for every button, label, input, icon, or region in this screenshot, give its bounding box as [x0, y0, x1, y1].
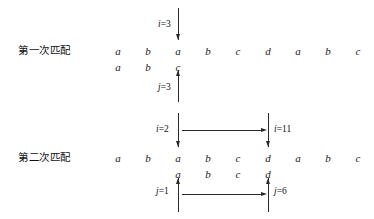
j-end-pointer-arrowhead-2	[266, 178, 270, 184]
text-char-1-3: a	[172, 45, 184, 57]
i-pointer-label-1: i=3	[158, 19, 171, 29]
text-char-1-4: b	[202, 45, 214, 57]
section-caption-2: 第二次匹配	[18, 149, 71, 164]
i-end-pointer-label-2: i=11	[274, 124, 291, 134]
text-char-1-9: c	[352, 45, 364, 57]
i-span-arrow-arrowhead-2	[261, 128, 267, 132]
j-start-pointer-label-2: j=1	[156, 186, 169, 196]
j-pointer-arrowhead-1	[176, 70, 180, 76]
text-char-1-7: a	[292, 45, 304, 57]
pattern-char-1-1: a	[112, 61, 124, 73]
i-start-pointer-arrowhead-2	[176, 141, 180, 147]
pattern-char-2-3: c	[232, 168, 244, 180]
text-char-2-7: a	[292, 152, 304, 164]
j-start-pointer-arrowhead-2	[176, 178, 180, 184]
text-char-2-2: b	[142, 152, 154, 164]
i-pointer-arrowhead-1	[176, 34, 180, 40]
section-caption-1: 第一次匹配	[18, 42, 71, 57]
text-char-1-1: a	[112, 45, 124, 57]
text-char-2-6: d	[262, 152, 274, 164]
pattern-char-1-2: b	[142, 61, 154, 73]
text-char-2-3: a	[172, 152, 184, 164]
j-span-arrow-line-2	[182, 194, 262, 195]
j-end-pointer-label-2: j=6	[274, 186, 287, 196]
i-end-pointer-arrowhead-2	[266, 141, 270, 147]
i-span-arrow-line-2	[182, 130, 262, 131]
text-char-2-5: c	[232, 152, 244, 164]
pattern-char-2-2: b	[202, 168, 214, 180]
text-char-2-4: b	[202, 152, 214, 164]
text-char-1-5: c	[232, 45, 244, 57]
j-span-arrow-arrowhead-2	[261, 192, 267, 196]
text-char-2-9: c	[352, 152, 364, 164]
kmp-matching-diagram: 第一次匹配ababcdabcabci=3j=3第二次匹配ababcdabcabc…	[0, 0, 374, 219]
text-char-1-2: b	[142, 45, 154, 57]
i-start-pointer-label-2: i=2	[156, 124, 169, 134]
text-char-1-6: d	[262, 45, 274, 57]
j-pointer-label-1: j=3	[158, 82, 171, 92]
text-char-2-1: a	[112, 152, 124, 164]
text-char-2-8: b	[322, 152, 334, 164]
text-char-1-8: b	[322, 45, 334, 57]
